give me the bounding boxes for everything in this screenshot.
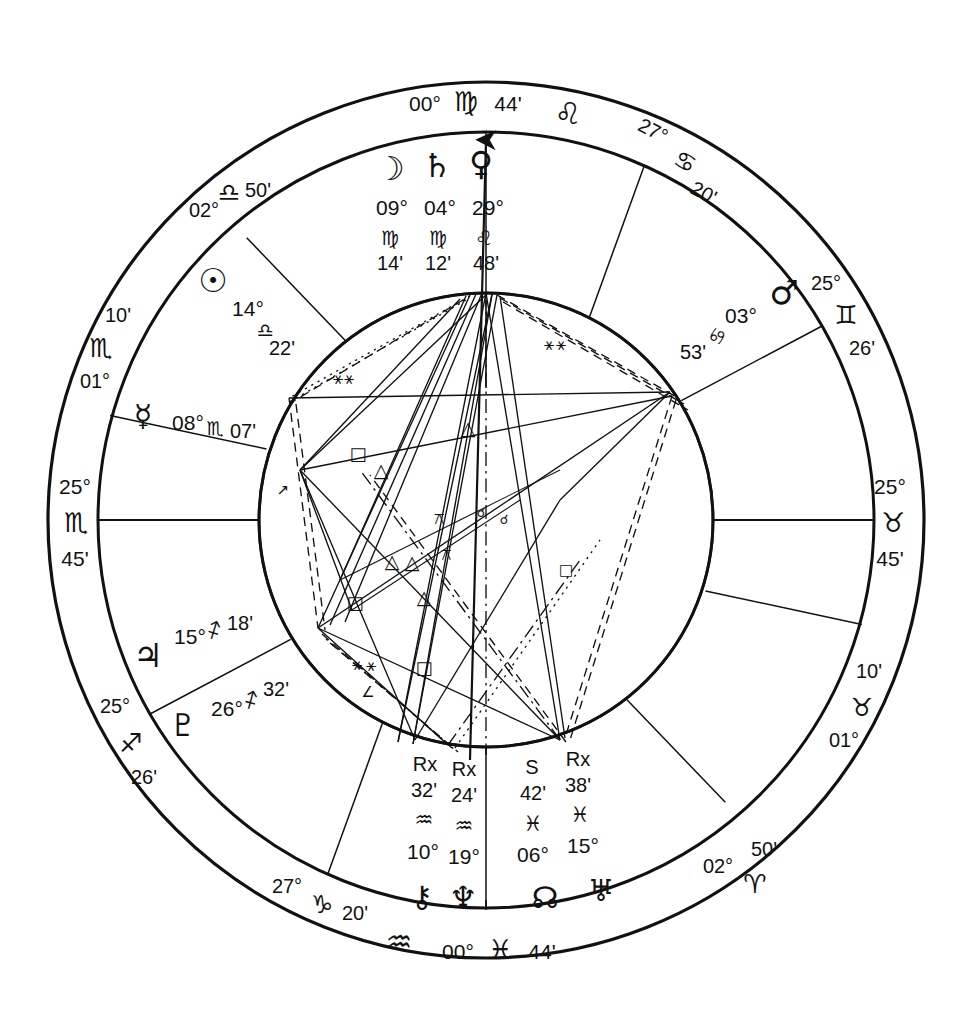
cusp-12-sign-glyph: ♏ [89, 333, 112, 363]
cusp-5-degree: 02° [703, 855, 733, 877]
mercury-glyph: ☿ [134, 398, 152, 433]
mc-sign-glyph: ♍ [454, 86, 478, 117]
planet-neptune: Rx 24' ♒ 19° ♆ [448, 758, 480, 917]
chart-svg: △ □ △ △ △ □ △ □ □ ⚻ ⚻ ☌ ☌ ⚹ ⚹ ⚹ ⚹ ⚹ ⚹ ∠ … [0, 0, 973, 1026]
cusp-6-degree: 01° [829, 729, 859, 751]
south-node-sign-glyph: ♓ [524, 812, 543, 836]
south-node-minute: 42' [520, 782, 546, 804]
mars-minute: 53' [680, 341, 706, 363]
ic-minute: 44' [528, 940, 555, 963]
venus-minute: 48' [473, 252, 499, 274]
aspect-marker-sextile: ⚹ [366, 655, 376, 675]
south-node-degree: 06° [517, 843, 549, 866]
cusp-6-minute: 10' [856, 660, 882, 682]
aspect-marker-square: □ [349, 443, 366, 464]
cusp-9-minute: 20' [687, 177, 720, 209]
cusp-5-sign-glyph: ♈ [743, 869, 766, 899]
neptune-sign-glyph: ♒ [455, 814, 474, 838]
venus-degree: 29° [472, 196, 504, 219]
cusp-9-sign-glyph: ♋ [669, 145, 701, 180]
dsc-degree: 25° [874, 475, 906, 498]
planet-venus: ♀ 29° ♌ 48' [469, 144, 504, 275]
aspect-marker-conjunction: ☌ [477, 505, 486, 520]
cusp-3-degree: 27° [272, 875, 302, 897]
cusp-11-minute: 50' [245, 179, 271, 201]
sun-glyph: ☉ [198, 261, 228, 300]
cusp-line-9 [589, 166, 644, 317]
neptune-minute: 24' [451, 784, 477, 806]
mars-sign-glyph: ♋ [703, 323, 730, 348]
aspect-marker-sextile: ⚹ [333, 368, 343, 388]
cusp-3-label: 27° ♑ 20' [272, 875, 368, 924]
sun-degree: 14° [232, 297, 264, 320]
jupiter-glyph: ♃ [133, 636, 163, 675]
mc-label-group: 00° ♍ 44' [409, 86, 522, 117]
uranus-minute: 38' [565, 774, 591, 796]
cusp-12-minute: 10' [105, 304, 131, 326]
cusp-line-5 [626, 699, 725, 803]
planet-mercury: ☿ 08° ♏ 07' [134, 398, 256, 443]
uranus-glyph: ♅ [588, 873, 615, 908]
cusp-12-degree: 01° [80, 370, 110, 392]
aspect-marker-sextile: ⚹ [352, 654, 362, 674]
astrology-chart-wheel: △ □ △ △ △ □ △ □ □ ⚻ ⚻ ☌ ☌ ⚹ ⚹ ⚹ ⚹ ⚹ ⚹ ∠ … [0, 0, 973, 1026]
cusp-6-sign-glyph: ♉ [851, 693, 873, 722]
cusp-3-minute: 20' [342, 902, 368, 924]
cusp-8-minute: 26' [849, 337, 875, 359]
mars-degree: 03° [725, 304, 757, 327]
mercury-minute: 07' [230, 420, 256, 442]
mars-glyph: ♂ [769, 273, 799, 312]
neptune-retrograde: Rx [452, 758, 476, 780]
saturn-minute: 12' [425, 252, 451, 274]
aspect-marker-square: □ [559, 561, 573, 579]
moon-degree: 09° [376, 196, 408, 219]
uranus-retrograde: Rx [566, 748, 590, 770]
aspect-marker-trine: △ [374, 459, 389, 481]
cusp-5-label: 50' 02° ♈ [703, 838, 777, 899]
dsc-label: 25° ♉ 45' [874, 475, 906, 570]
planet-chiron: Rx 32' ♒ 10° ⚷ [407, 753, 439, 914]
aspect-lines [286, 293, 688, 752]
aspect-marker-semisquare: ∠ [361, 683, 374, 701]
uranus-degree: 15° [567, 834, 599, 857]
south-node-mark: S [525, 756, 538, 778]
ic-label: 00° ♓ 44' [442, 934, 556, 965]
cusp-8-sign-glyph: ♊ [834, 300, 857, 330]
dsc-sign-glyph: ♉ [881, 507, 905, 538]
jupiter-degree: 15° [174, 625, 206, 648]
aspect-marker-opposition: ⚻ [441, 545, 452, 564]
moon-minute: 14' [377, 252, 403, 274]
ic-sign-glyph: ♓ [488, 934, 512, 965]
aspect-marker-trine: △ [417, 586, 432, 608]
aspect-marker-sextile: ⚹ [556, 334, 566, 354]
jupiter-minute: 18' [227, 612, 253, 634]
cusp-2-minute: 26' [131, 766, 157, 788]
chiron-degree: 10° [407, 840, 439, 863]
saturn-glyph: ♄ [422, 146, 452, 185]
planet-moon: ☽ 09° ♍ 14' [375, 149, 408, 275]
planet-pluto: ♇ 26° ♐ 32' [169, 678, 289, 743]
aspect-marker-opposition: ⚻ [434, 509, 445, 528]
cusp-8-degree: 25° [811, 272, 841, 294]
asc-degree: 25° [59, 475, 91, 498]
aspect-marker-sextile: ⚹ [344, 368, 354, 388]
aspect-marker-semisquare: ↗ [277, 481, 290, 499]
cusp-8-label: 25° ♊ 26' [811, 272, 875, 359]
neptune-degree: 19° [448, 845, 480, 868]
mc-degree: 00° [409, 92, 441, 115]
venus-sign-glyph: ♌ [475, 226, 493, 250]
aspect-marker-trine: △ [461, 417, 476, 439]
aspect-marker-trine: △ [385, 550, 400, 572]
cusp-line-8 [681, 327, 821, 401]
cusp-3-sign-glyph: ♑ [311, 890, 333, 919]
pluto-minute: 32' [263, 678, 289, 700]
aspect-marker-square: □ [415, 657, 432, 678]
cusp-6-label: 10' ♉ 01° [829, 660, 882, 751]
cusp-9-degree: 27° [635, 113, 672, 147]
saturn-degree: 04° [424, 196, 456, 219]
aspect-marker-trine: △ [405, 551, 420, 573]
outer-sign-glyph-aquarius: ♒ [386, 924, 413, 959]
planet-south-node: S 42' ♓ 06° ☊ [517, 756, 558, 915]
asc-sign-glyph: ♏ [64, 507, 88, 538]
planet-saturn: ♄ 04° ♍ 12' [422, 146, 456, 275]
